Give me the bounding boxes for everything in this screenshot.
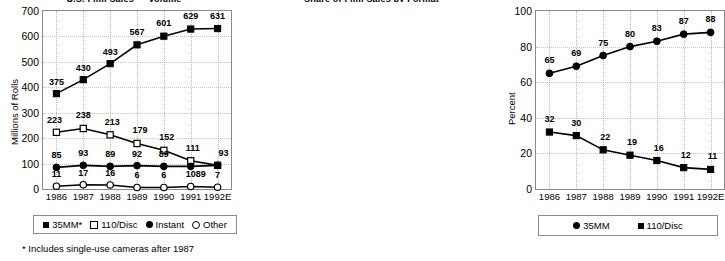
data-point-marker: [707, 29, 714, 36]
data-point-marker: [53, 129, 59, 135]
data-point-marker: [707, 166, 713, 172]
chart-title-share: Share of Film Sales by Format: [248, 0, 495, 2]
data-point-marker: [107, 182, 113, 188]
legend-item-label: 110/Disc: [101, 219, 137, 230]
y-axis-tick-label: 600: [21, 31, 39, 42]
y-axis-tick-label: 300: [21, 107, 39, 118]
square-marker-icon: [638, 223, 644, 229]
data-point-marker: [161, 33, 167, 39]
data-value-label: 430: [76, 64, 91, 73]
data-point-marker: [214, 162, 221, 169]
data-value-label: 65: [544, 56, 554, 65]
legend-item-110disc[interactable]: 110/Disc: [90, 219, 137, 230]
chart-panel-share: Share of Film Sales by Format Percent 02…: [248, 0, 495, 261]
data-value-label: 601: [156, 19, 171, 28]
x-axis-tick-label: 1986: [46, 192, 67, 202]
data-value-label: 93: [219, 149, 229, 158]
data-point-marker: [680, 31, 687, 38]
data-value-label: 6: [134, 171, 139, 180]
data-point-marker: [134, 42, 140, 48]
data-value-label: 89: [159, 150, 169, 159]
legend-item-label: 35MM*: [52, 219, 82, 230]
chart-title-volume: U.S. Film Sales — Volume: [0, 0, 248, 2]
data-point-marker: [573, 133, 579, 139]
data-value-label: 11: [52, 170, 62, 179]
data-value-label: 567: [129, 28, 144, 37]
data-value-label: 213: [105, 118, 120, 127]
data-point-marker: [653, 38, 660, 45]
data-point-marker: [654, 157, 660, 163]
x-axis-tick-label: 1991: [180, 192, 201, 202]
x-axis-tick-label: 1989: [126, 192, 147, 202]
legend-item-35mm[interactable]: 35MM*: [43, 219, 82, 230]
x-axis-tick-label: 1987: [566, 192, 587, 202]
data-point-marker: [53, 91, 59, 97]
data-value-label: 32: [544, 115, 554, 124]
data-value-label: 152: [159, 133, 174, 142]
data-value-label: 12: [681, 151, 691, 160]
legend-item-instant[interactable]: Instant: [146, 219, 185, 230]
legend-item-110disc[interactable]: 110/Disc: [638, 220, 683, 231]
data-point-marker: [188, 183, 194, 189]
square-marker-icon: [90, 221, 98, 229]
y-axis-tick-label: 40: [520, 113, 532, 124]
data-point-marker: [600, 52, 607, 59]
circle-marker-icon: [573, 222, 580, 229]
square-marker-icon: [43, 222, 49, 228]
y-axis-tick-label: 0: [33, 184, 39, 195]
y-axis-tick-label: 400: [21, 82, 39, 93]
data-value-label: 629: [183, 12, 198, 21]
data-value-label: 17: [78, 169, 88, 178]
data-point-marker: [627, 43, 634, 50]
x-axis-tick-label: 1990: [646, 192, 667, 202]
legend-item-label: 110/Disc: [647, 220, 683, 231]
data-value-label: 6: [161, 171, 166, 180]
data-point-marker: [214, 184, 220, 190]
y-axis-tick-label: 500: [21, 57, 39, 68]
data-value-label: 7: [215, 171, 220, 180]
data-value-label: 22: [600, 133, 610, 142]
data-point-marker: [134, 140, 140, 146]
data-value-label: 375: [49, 78, 64, 87]
data-value-label: 11: [708, 152, 718, 161]
x-axis-tick-label: 1988: [593, 192, 614, 202]
data-value-label: 493: [103, 48, 118, 57]
legend-share: 35MM110/Disc: [538, 215, 718, 236]
data-point-marker: [546, 70, 553, 77]
series-layer: [43, 11, 231, 189]
y-axis-tick-label: 20: [520, 148, 532, 159]
x-axis-tick-label: 1987: [73, 192, 94, 202]
data-point-marker: [107, 132, 113, 138]
plot-area-volume: 0100200300400500600700198619871988198919…: [42, 10, 232, 190]
legend-volume: 35MM*110/DiscInstantOther: [33, 215, 237, 234]
x-axis-tick-label: 1992E: [204, 192, 231, 202]
data-point-marker: [160, 163, 167, 170]
y-axis-tick-label: 60: [520, 77, 532, 88]
series-line-35mm: [56, 29, 217, 94]
data-value-label: 238: [76, 111, 91, 120]
legend-item-35mm[interactable]: 35MM: [573, 220, 609, 231]
legend-item-other[interactable]: Other: [192, 219, 227, 230]
y-axis-label-volume: Millions of Rolls: [9, 79, 20, 145]
data-value-label: 19: [627, 138, 637, 147]
data-value-label: 92: [132, 150, 142, 159]
data-value-label: 93: [78, 149, 88, 158]
data-value-label: 69: [571, 49, 581, 58]
data-value-label: 10: [186, 170, 196, 179]
y-axis-label-share: Percent: [506, 92, 517, 125]
data-value-label: 223: [47, 116, 62, 125]
data-point-marker: [188, 26, 194, 32]
data-point-marker: [134, 162, 141, 169]
x-axis-tick-label: 1990: [153, 192, 174, 202]
circle-marker-icon: [146, 221, 153, 228]
data-value-label: 83: [652, 24, 662, 33]
data-value-label: 111: [186, 144, 200, 153]
data-point-marker: [573, 63, 580, 70]
data-point-marker: [214, 25, 220, 31]
data-value-label: 631: [210, 12, 225, 21]
data-value-label: 16: [105, 169, 115, 178]
data-value-label: 88: [706, 15, 716, 24]
legend-item-label: Instant: [156, 219, 185, 230]
data-point-marker: [681, 165, 687, 171]
data-value-label: 75: [598, 39, 608, 48]
